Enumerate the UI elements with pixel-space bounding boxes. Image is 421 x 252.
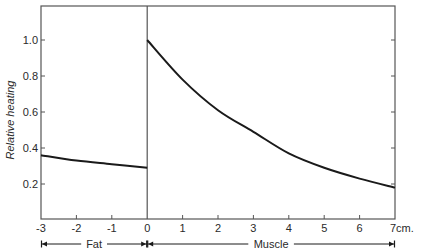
x-tick-label: 1 [180, 222, 186, 234]
x-tick-label: 2 [215, 222, 221, 234]
x-tick-label: -1 [107, 222, 117, 234]
data-series [41, 40, 395, 188]
x-tick-label: 4 [286, 222, 292, 234]
arrowhead-right-icon [389, 242, 394, 247]
y-tick-label: 0.6 [23, 106, 38, 118]
tissue-region-annotations: FatMuscle [41, 238, 395, 250]
chart: 0.20.40.60.81.0 -3-2-101234567cm. FatMus… [0, 0, 421, 252]
y-axis-ticks: 0.20.40.60.81.0 [23, 34, 395, 190]
y-tick-label: 0.4 [23, 142, 38, 154]
x-tick-label: 7cm. [390, 222, 414, 234]
arrowhead-right-icon [141, 242, 146, 247]
x-tick-label: -3 [36, 222, 46, 234]
plot-frame [41, 6, 395, 219]
x-tick-label: 5 [321, 222, 327, 234]
x-tick-label: -2 [72, 222, 82, 234]
y-tick-label: 0.8 [23, 70, 38, 82]
plot-border [41, 6, 395, 219]
arrowhead-left-icon [148, 242, 153, 247]
x-tick-label: 0 [144, 222, 150, 234]
series-line-muscle [147, 40, 395, 188]
series-line-fat [41, 155, 147, 168]
region-label-fat: Fat [86, 238, 102, 250]
x-tick-label: 3 [250, 222, 256, 234]
y-tick-label: 0.2 [23, 178, 38, 190]
x-axis-ticks: -3-2-101234567cm. [36, 215, 414, 234]
x-tick-label: 6 [357, 222, 363, 234]
region-label-muscle: Muscle [254, 238, 289, 250]
y-tick-label: 1.0 [23, 34, 38, 46]
arrowhead-left-icon [42, 242, 47, 247]
y-axis-title: Relative heating [4, 80, 16, 160]
